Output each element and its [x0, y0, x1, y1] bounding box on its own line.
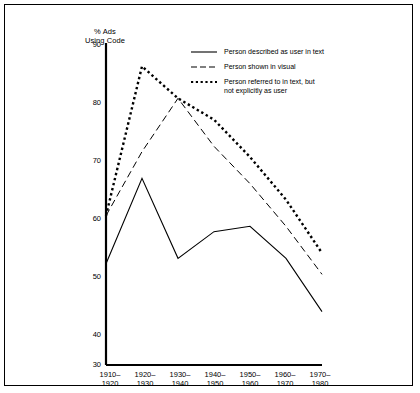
series-dotted-line [106, 66, 322, 253]
series-solid-line [106, 178, 322, 311]
plot-area [5, 5, 414, 387]
series-lines [106, 66, 322, 311]
axes [106, 43, 322, 365]
chart-frame: % Ads Using Code 90 80 70 60 50 40 30 19… [4, 4, 413, 386]
